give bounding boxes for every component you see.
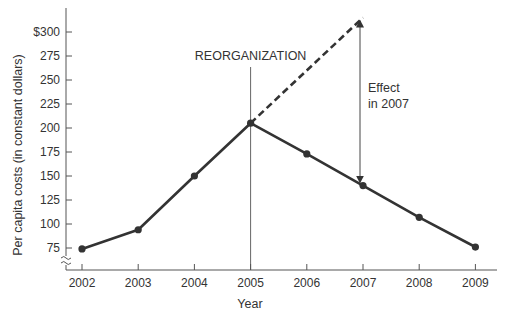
x-tick-label: 2005	[237, 276, 264, 290]
line-chart: 75100125150175200225250275$3002002200320…	[0, 0, 506, 320]
data-point	[191, 172, 198, 179]
projected-trend-line	[251, 18, 363, 124]
y-tick-label: 225	[40, 97, 60, 111]
y-axis-title: Per capita costs (in constant dollars)	[11, 54, 25, 255]
data-point	[472, 243, 479, 250]
x-tick-label: 2004	[181, 276, 208, 290]
x-axis-title: Year	[237, 297, 262, 311]
data-point	[303, 150, 310, 157]
data-point	[78, 245, 85, 252]
data-point	[359, 182, 366, 189]
effect-label-line2: in 2007	[368, 97, 409, 111]
y-tick-label: $300	[33, 25, 60, 39]
y-tick-label: 75	[47, 241, 61, 255]
y-tick-label: 250	[40, 73, 60, 87]
data-point	[135, 226, 142, 233]
data-point	[416, 214, 423, 221]
x-tick-label: 2009	[462, 276, 489, 290]
x-tick-label: 2003	[125, 276, 152, 290]
x-tick-label: 2006	[293, 276, 320, 290]
axis-break-icon	[61, 257, 71, 265]
y-tick-label: 275	[40, 49, 60, 63]
y-tick-label: 200	[40, 121, 60, 135]
y-tick-label: 100	[40, 217, 60, 231]
y-tick-label: 175	[40, 145, 60, 159]
y-tick-label: 125	[40, 193, 60, 207]
x-tick-label: 2008	[406, 276, 433, 290]
y-tick-label: 150	[40, 169, 60, 183]
x-tick-label: 2002	[69, 276, 96, 290]
effect-label-line1: Effect	[368, 81, 400, 95]
reorganization-label: REORGANIZATION	[195, 49, 307, 63]
x-tick-label: 2007	[350, 276, 377, 290]
